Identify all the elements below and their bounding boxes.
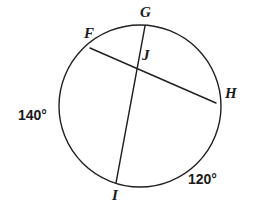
- point-label-i: I: [112, 188, 118, 203]
- point-label-h: H: [225, 86, 237, 101]
- chord-g-to-i: [116, 26, 145, 183]
- point-label-j: J: [142, 48, 150, 63]
- arc-measure-right: 120°: [188, 172, 217, 186]
- point-label-g: G: [140, 5, 151, 20]
- arc-measure-left: 140°: [18, 108, 47, 122]
- circle-diagram-canvas: [0, 0, 265, 207]
- chord-f-to-h: [90, 48, 216, 103]
- point-label-f: F: [84, 26, 94, 41]
